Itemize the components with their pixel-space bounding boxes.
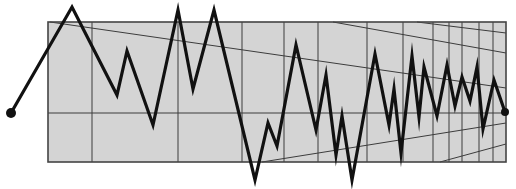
- signal-start-dot: [6, 108, 16, 118]
- signal-over-perspective-grid-diagram: [0, 0, 516, 189]
- diagram-canvas: [0, 0, 516, 189]
- signal-end-dot: [501, 108, 509, 116]
